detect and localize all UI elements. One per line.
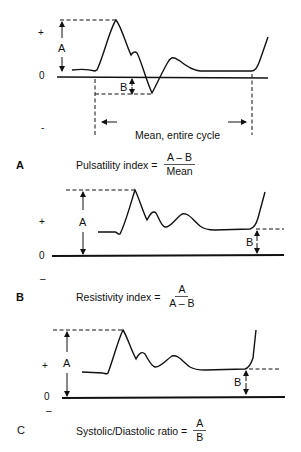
formula-name: Systolic/Diastolic ratio = <box>76 425 187 437</box>
systolic-diastolic-ratio-formula: Systolic/Diastolic ratio = A B <box>76 418 206 443</box>
numerator: A <box>175 284 188 297</box>
denominator: A – B <box>166 297 197 309</box>
dimension-b-label: B <box>120 81 127 93</box>
mean-cycle-label: Mean, entire cycle <box>135 129 220 141</box>
doppler-waveform-diagram <box>0 0 301 452</box>
axis-plus-label: + <box>39 216 45 228</box>
axis-zero-label: 0 <box>44 391 50 403</box>
formula-name: Resistivity index = <box>76 291 160 303</box>
zero-baseline <box>57 77 268 78</box>
axis-plus-label: + <box>38 27 44 39</box>
waveform-trace <box>72 20 268 93</box>
denominator: B <box>193 431 206 443</box>
dimension-a-label: A <box>63 357 70 369</box>
numerator: A – B <box>164 152 195 165</box>
axis-minus-label: – <box>40 273 46 285</box>
fraction: A A – B <box>166 284 197 309</box>
dimension-a-label: A <box>58 42 65 54</box>
numerator: A <box>193 418 206 431</box>
resistivity-index-formula: Resistivity index = A A – B <box>76 284 197 309</box>
zero-baseline <box>62 397 285 398</box>
axis-zero-label: 0 <box>39 70 45 82</box>
panel-c-graph <box>53 330 285 398</box>
zero-baseline <box>52 255 284 256</box>
dimension-b-label: B <box>246 236 253 248</box>
waveform-trace <box>98 190 265 234</box>
dimension-a-label: A <box>79 216 86 228</box>
fraction: A B <box>193 418 206 443</box>
formula-name: Pulsatility index = <box>76 159 157 171</box>
axis-minus-label: - <box>41 122 44 134</box>
panel-c-letter: C <box>17 424 25 436</box>
panel-a-graph <box>57 20 268 135</box>
panel-b-letter: B <box>16 291 24 303</box>
fraction: A – B Mean <box>163 152 195 177</box>
panel-a-letter: A <box>16 159 24 171</box>
waveform-trace <box>82 330 256 374</box>
denominator: Mean <box>163 165 195 177</box>
axis-zero-label: 0 <box>39 250 45 262</box>
dimension-b-label: B <box>234 376 241 388</box>
axis-plus-label: + <box>42 360 48 372</box>
pulsatility-index-formula: Pulsatility index = A – B Mean <box>76 152 196 177</box>
axis-minus-label: – <box>46 405 52 417</box>
